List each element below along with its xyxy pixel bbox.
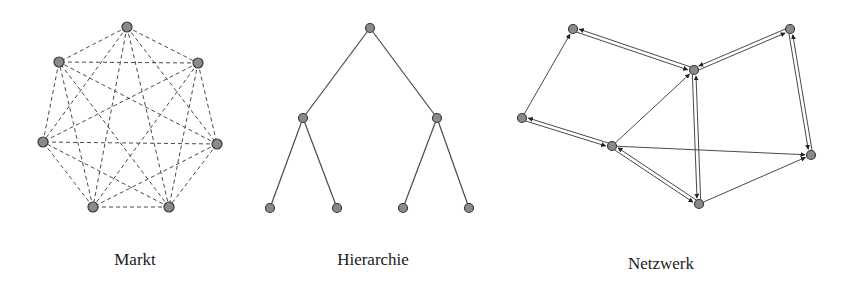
label-hierarchie: Hierarchie [337, 250, 409, 270]
edge [127, 27, 169, 207]
edge [169, 63, 198, 207]
node [518, 114, 527, 123]
node [38, 137, 48, 147]
hierarchy-tree [266, 24, 474, 213]
node [569, 25, 578, 34]
edge [579, 29, 694, 68]
node [786, 25, 795, 34]
edge [43, 27, 127, 142]
edge [522, 34, 570, 118]
edge [303, 118, 337, 208]
node [399, 204, 408, 213]
edge [43, 63, 198, 142]
edge [198, 63, 217, 144]
edge [572, 31, 687, 70]
node [366, 24, 375, 33]
label-markt: Markt [114, 250, 156, 270]
node [266, 204, 275, 213]
edge [270, 118, 303, 208]
edge [699, 27, 789, 66]
edge [93, 27, 127, 207]
edge [93, 63, 198, 207]
node [608, 142, 617, 151]
edge [611, 147, 693, 202]
node [54, 57, 64, 67]
node [690, 66, 699, 75]
edge [699, 157, 806, 204]
edge [403, 118, 437, 208]
edge [788, 29, 808, 149]
edge [59, 62, 217, 144]
edge [695, 33, 785, 72]
edge [59, 62, 198, 63]
edge [528, 118, 612, 144]
edge [437, 118, 469, 208]
edge [370, 28, 437, 118]
edge [43, 142, 217, 144]
edge [93, 144, 217, 207]
label-netzwerk: Netzwerk [628, 254, 694, 274]
diagram-canvas [0, 0, 849, 284]
node [807, 151, 816, 160]
node [212, 139, 222, 149]
node [465, 204, 474, 213]
edge [793, 35, 813, 155]
node [122, 22, 132, 32]
edge [612, 146, 805, 155]
network-graph [518, 25, 816, 209]
node [333, 204, 342, 213]
edge [127, 27, 198, 63]
edge [618, 148, 700, 203]
edge [59, 62, 169, 207]
edge [59, 27, 127, 62]
edge [43, 142, 169, 207]
edge [303, 28, 370, 118]
node [299, 114, 308, 123]
node [164, 202, 174, 212]
node [695, 200, 704, 209]
markt-network [38, 22, 222, 212]
node [193, 58, 203, 68]
node [433, 114, 442, 123]
edge [521, 120, 605, 146]
node [88, 202, 98, 212]
edge [43, 62, 59, 142]
edge [169, 144, 217, 207]
edge [43, 142, 93, 207]
edge [612, 74, 690, 146]
